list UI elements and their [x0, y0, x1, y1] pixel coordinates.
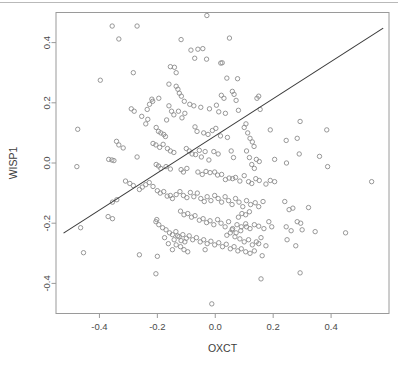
scatter-point — [212, 149, 216, 153]
scatter-point — [204, 57, 208, 61]
scatter-point — [235, 77, 239, 81]
scatter-point — [238, 237, 242, 241]
scatter-point — [268, 128, 272, 132]
scatter-point — [196, 47, 200, 51]
scatter-point — [157, 223, 161, 227]
scatter-point — [217, 241, 221, 245]
scatter-point — [193, 56, 197, 60]
scatter-point — [176, 109, 180, 113]
scatter-point — [147, 180, 151, 184]
scatter-point — [180, 116, 184, 120]
scatter-point — [186, 250, 190, 254]
x-tick-label: -0.2 — [149, 321, 165, 332]
scatter-point — [197, 148, 201, 152]
scatter-point — [232, 244, 236, 248]
scatter-point — [270, 225, 274, 229]
scatter-point — [313, 229, 317, 233]
scatter-point — [252, 249, 256, 253]
scatter-point — [260, 254, 264, 258]
scatter-point — [223, 111, 227, 115]
scatter-point — [172, 238, 176, 242]
scatter-point — [298, 271, 302, 275]
scatter-point — [202, 199, 206, 203]
scatter-point — [230, 202, 234, 206]
scatter-point — [172, 113, 176, 117]
scatter-point — [170, 247, 174, 251]
scatter-point — [187, 234, 191, 238]
scatter-point — [325, 164, 329, 168]
scatter-point — [174, 71, 178, 75]
scatter-point — [241, 204, 245, 208]
scatter-point — [201, 238, 205, 242]
scatter-point — [216, 152, 220, 156]
scatter-point — [182, 99, 186, 103]
scatter-point — [212, 223, 216, 227]
scatter-point — [257, 204, 261, 208]
scatter-point — [76, 127, 80, 131]
scatter-point — [117, 37, 121, 41]
y-tick-label: 0.0 — [41, 156, 52, 169]
scatter-point — [238, 179, 242, 183]
x-tick-label: 0.0 — [209, 321, 222, 332]
scatter-point — [297, 152, 301, 156]
scatter-point — [243, 250, 247, 254]
scatter-point — [252, 144, 256, 148]
scatter-point — [192, 195, 196, 199]
scatter-point — [165, 146, 169, 150]
scatter-point — [226, 219, 230, 223]
scatter-point — [253, 201, 257, 205]
scatter-point — [131, 71, 135, 75]
scatter-point — [106, 214, 110, 218]
scatter-point — [162, 235, 166, 239]
scatter-point — [242, 125, 246, 129]
scatter-point — [289, 229, 293, 233]
scatter-point — [199, 105, 203, 109]
scatter-point — [201, 131, 205, 135]
scatter-point — [291, 206, 295, 210]
scatter-point — [248, 202, 252, 206]
scatter-point — [164, 118, 168, 122]
scatter-point — [199, 155, 203, 159]
scatter-point — [174, 192, 178, 196]
scatter-point — [137, 253, 141, 257]
scatter-point — [268, 178, 272, 182]
scatter-point — [244, 225, 248, 229]
scatter-point — [284, 161, 288, 165]
scatter-point — [243, 222, 247, 226]
scatter-point — [242, 240, 246, 244]
scatter-point — [81, 251, 85, 255]
scatter-point — [210, 302, 214, 306]
scatter-point — [200, 172, 204, 176]
scatter-point — [217, 110, 221, 114]
scatter-point — [219, 200, 223, 204]
scatter-point — [151, 184, 155, 188]
scatter-point — [246, 238, 250, 242]
scatter-point — [98, 78, 102, 82]
scatter-point — [121, 146, 125, 150]
scatter-point — [226, 198, 230, 202]
scatter-point — [284, 138, 288, 142]
scatter-point — [236, 215, 240, 219]
scatter-point — [178, 209, 182, 213]
scatter-point — [245, 131, 249, 135]
scatter-point — [244, 149, 248, 153]
scatter-point — [272, 157, 276, 161]
scatter-point — [123, 179, 127, 183]
scatter-point — [225, 135, 229, 139]
scatter-point — [114, 139, 118, 143]
y-tick-label: 0.4 — [41, 36, 52, 49]
scatter-point — [250, 243, 254, 247]
scatter-point — [229, 149, 233, 153]
scatter-point — [239, 247, 243, 251]
scatter-point — [259, 277, 263, 281]
x-tick-label: -0.4 — [91, 321, 107, 332]
scatter-points-group — [75, 13, 374, 306]
scatter-point — [137, 187, 141, 191]
scatter-point — [203, 247, 207, 251]
scatter-point — [189, 48, 193, 52]
y-tick-label: 0.2 — [41, 96, 52, 109]
scatter-point — [205, 13, 209, 17]
scatter-point — [306, 205, 310, 209]
scatter-point — [167, 82, 171, 86]
scatter-point — [227, 36, 231, 40]
